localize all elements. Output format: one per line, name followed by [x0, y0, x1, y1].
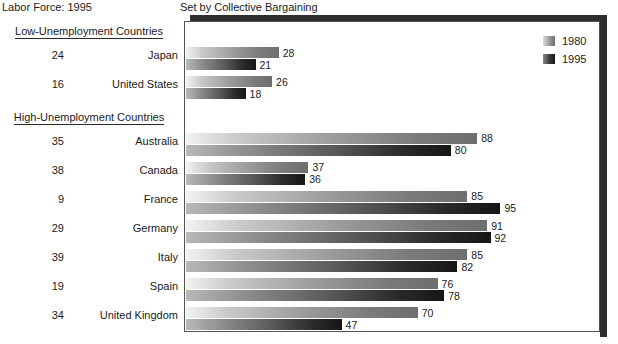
row-label-australia: 35Australia: [0, 134, 178, 148]
group-header-low-unemployment: Low-Unemployment Countries: [0, 25, 178, 38]
row-label-italy: 39Italy: [0, 250, 178, 264]
bar-value-italy-1980: 85: [471, 249, 483, 260]
category-name: United States: [112, 77, 178, 91]
bar-united-states-1980: [186, 76, 272, 87]
category-name: United Kingdom: [100, 308, 178, 322]
category-name: Spain: [150, 279, 178, 293]
row-annotation-value: 16: [38, 77, 64, 91]
bar-united-kingdom-1980: [186, 307, 418, 318]
row-label-france: 9France: [0, 192, 178, 206]
legend-item-1995: 1995: [543, 51, 603, 69]
group-header-high-unemployment: High-Unemployment Countries: [0, 111, 178, 124]
bar-france-1995: [186, 203, 500, 214]
bar-germany-1995: [186, 232, 491, 243]
bar-germany-1980: [186, 220, 487, 231]
bar-value-united-kingdom-1995: 47: [346, 319, 358, 330]
row-label-canada: 38Canada: [0, 163, 178, 177]
bar-value-japan-1980: 28: [283, 47, 295, 58]
bar-australia-1980: [186, 133, 477, 144]
bar-value-germany-1980: 91: [491, 220, 503, 231]
bar-value-spain-1980: 76: [442, 278, 454, 289]
legend-swatch-1980: [543, 36, 555, 46]
category-name: France: [144, 192, 178, 206]
bar-italy-1980: [186, 249, 467, 260]
category-name: Australia: [135, 134, 178, 148]
group-header-label: High-Unemployment Countries: [14, 111, 164, 125]
group-header-label: Low-Unemployment Countries: [15, 25, 163, 39]
bar-value-canada-1980: 37: [312, 161, 324, 172]
bars-layer: 282126188880373685959192858276787047: [186, 22, 600, 331]
bar-value-united-states-1995: 18: [250, 88, 262, 99]
row-annotation-value: 19: [38, 279, 64, 293]
bar-value-canada-1995: 36: [309, 173, 321, 184]
bar-japan-1980: [186, 47, 279, 58]
category-name: Italy: [158, 250, 178, 264]
legend: 19801995: [543, 33, 603, 69]
category-name: Canada: [139, 163, 178, 177]
legend-label-1995: 1995: [562, 51, 586, 67]
bar-spain-1980: [186, 278, 438, 289]
category-name: Japan: [148, 48, 178, 62]
legend-label-1980: 1980: [562, 33, 586, 49]
row-label-japan: 24Japan: [0, 48, 178, 62]
bar-value-france-1980: 85: [471, 190, 483, 201]
bar-value-united-states-1980: 26: [276, 76, 288, 87]
bar-france-1980: [186, 191, 467, 202]
row-annotation-value: 29: [38, 221, 64, 235]
chart-title: Set by Collective Bargaining: [180, 1, 318, 14]
bar-value-australia-1980: 88: [481, 132, 493, 143]
row-label-united-states: 16United States: [0, 77, 178, 91]
row-annotation-value: 35: [38, 134, 64, 148]
bar-japan-1995: [186, 59, 256, 70]
legend-swatch-1995: [543, 54, 555, 64]
bar-spain-1995: [186, 290, 444, 301]
bar-australia-1995: [186, 145, 451, 156]
row-label-united-kingdom: 34United Kingdom: [0, 308, 178, 322]
row-annotation-value: 39: [38, 250, 64, 264]
row-annotation-value: 9: [38, 192, 64, 206]
bar-value-japan-1995: 21: [260, 59, 272, 70]
bar-italy-1995: [186, 261, 457, 272]
row-label-germany: 29Germany: [0, 221, 178, 235]
row-annotation-value: 38: [38, 163, 64, 177]
legend-item-1980: 1980: [543, 33, 603, 51]
bar-value-germany-1995: 92: [495, 232, 507, 243]
bar-canada-1995: [186, 174, 305, 185]
bar-value-spain-1995: 78: [448, 290, 460, 301]
category-name: Germany: [133, 221, 178, 235]
bar-value-australia-1995: 80: [455, 144, 467, 155]
row-label-spain: 19Spain: [0, 279, 178, 293]
bar-united-kingdom-1995: [186, 319, 342, 330]
row-annotation-value: 24: [38, 48, 64, 62]
bar-canada-1980: [186, 162, 308, 173]
bar-value-united-kingdom-1980: 70: [422, 307, 434, 318]
row-annotation-value: 34: [38, 308, 64, 322]
bar-united-states-1995: [186, 88, 246, 99]
bar-value-italy-1995: 82: [461, 261, 473, 272]
bar-value-france-1995: 95: [504, 202, 516, 213]
category-label-column: Low-Unemployment CountriesHigh-Unemploym…: [0, 0, 182, 344]
